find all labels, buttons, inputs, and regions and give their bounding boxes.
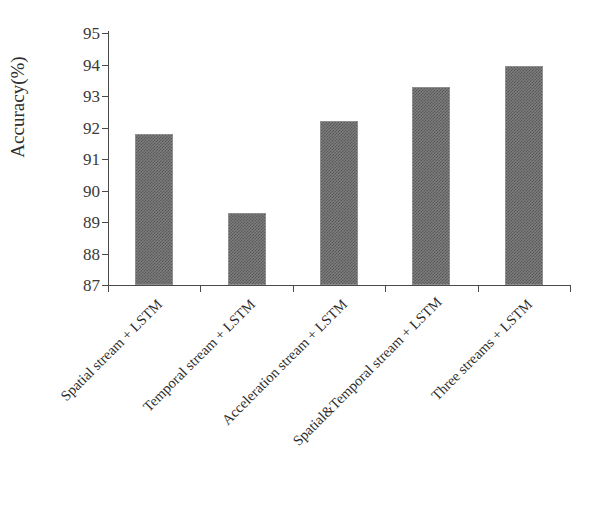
x-axis-tick [293,285,294,292]
x-axis-tick [108,285,109,292]
y-axis-tick [102,159,108,160]
y-axis-tick-label: 94 [83,56,100,73]
y-axis-tick-label: 91 [83,151,100,168]
bar [505,66,543,285]
y-axis-tick-label: 90 [83,182,100,199]
y-axis-tick-label: 92 [83,119,100,136]
x-axis-tick [385,285,386,292]
y-axis-title: Accuracy(%) [7,27,29,187]
x-axis-category-label: Acceleration stream + LSTM [198,296,351,449]
x-axis-category-label: Spatial stream + LSTM [13,296,166,449]
x-axis-line [108,285,571,286]
bar [135,134,173,285]
y-axis-tick [102,65,108,66]
y-axis-tick [102,222,108,223]
y-axis-tick-label: 93 [83,88,100,105]
x-axis-tick [478,285,479,292]
plot-area: 959493929190898887 [108,33,570,285]
x-axis-tick [570,285,571,292]
bar [320,121,358,285]
x-axis-category-label: Temporal stream + LSTM [105,296,258,449]
y-axis-tick-label: 88 [83,245,100,262]
x-axis-category-label: Three streams + LSTM [382,296,535,449]
y-axis-tick [102,191,108,192]
x-axis-tick [200,285,201,292]
y-axis-tick-label: 89 [83,214,100,231]
y-axis-tick [102,128,108,129]
y-axis-tick [102,33,108,34]
y-axis-tick-label: 95 [83,25,100,42]
bar [228,213,266,285]
chart-figure: Accuracy(%) 959493929190898887 Spatial s… [0,0,600,515]
y-axis-tick [102,254,108,255]
x-axis-category-label: Spatial&Temporal stream + LSTM [290,296,443,449]
bar [412,87,450,285]
y-axis-tick-label: 87 [83,277,100,294]
y-axis-tick [102,96,108,97]
